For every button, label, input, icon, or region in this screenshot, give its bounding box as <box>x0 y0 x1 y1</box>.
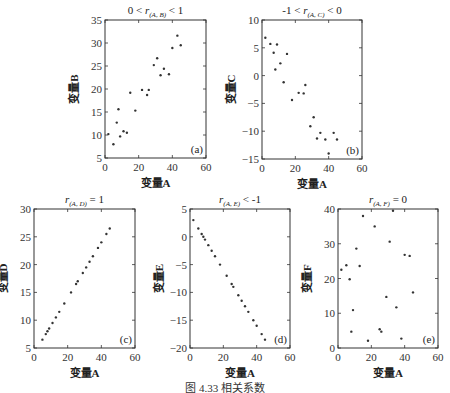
data-point <box>348 278 350 280</box>
data-point <box>400 337 402 339</box>
data-point <box>46 330 48 332</box>
y-axis-label: 变量D <box>0 263 9 293</box>
data-point <box>163 68 165 70</box>
data-point <box>345 264 347 266</box>
data-point <box>77 280 79 282</box>
y-axis-label: 变量B <box>67 74 80 104</box>
data-point <box>304 84 306 86</box>
y-tick-label: 0 <box>182 231 188 243</box>
y-tick-label: 15 <box>91 106 103 118</box>
data-point <box>197 227 199 229</box>
plot-frame <box>262 20 362 159</box>
figure-caption: 图 4.33 相关系数 <box>185 381 265 393</box>
data-point <box>117 108 119 110</box>
x-axis-label: 变量A <box>141 176 171 189</box>
x-tick-label: 60 <box>357 162 369 174</box>
x-axis-label: 变量A <box>373 366 403 379</box>
y-tick-label: 20 <box>20 259 32 271</box>
data-point <box>340 269 342 271</box>
data-point <box>388 240 390 242</box>
data-point <box>82 272 84 274</box>
data-point <box>392 210 394 212</box>
data-point <box>260 333 262 335</box>
x-tick-label: 60 <box>285 351 297 363</box>
x-tick-label: 40 <box>251 351 263 363</box>
y-tick-label: 25 <box>20 231 32 243</box>
y-tick-label: 30 <box>91 37 103 49</box>
x-tick-label: 0 <box>31 351 37 363</box>
y-tick-label: 30 <box>324 238 336 250</box>
data-point <box>269 43 271 45</box>
y-axis-label: 变量F <box>300 264 313 293</box>
data-point <box>324 138 326 140</box>
data-point <box>312 116 314 118</box>
plot-frame <box>190 209 290 348</box>
data-point <box>126 132 128 134</box>
data-point <box>352 309 354 311</box>
data-point <box>146 94 148 96</box>
panel-e: 0204060010203040r(A, F) = 0变量A变量F(e) <box>300 193 444 379</box>
data-point <box>380 330 382 332</box>
data-point <box>100 241 102 243</box>
data-point <box>55 316 57 318</box>
y-tick-label: 20 <box>91 83 103 95</box>
x-tick-label: 60 <box>130 351 142 363</box>
y-tick-label: 25 <box>91 60 103 72</box>
data-point <box>240 300 242 302</box>
x-tick-label: 60 <box>433 351 445 363</box>
data-point <box>319 132 321 134</box>
data-point <box>116 121 118 123</box>
data-point <box>252 319 254 321</box>
panel-d: 0204060−20−15−10−505r(A, E) < -1变量A变量E(d… <box>152 193 296 379</box>
y-axis-label: 变量C <box>224 74 237 104</box>
data-point <box>309 125 311 127</box>
data-point <box>378 328 380 330</box>
x-axis-label: 变量A <box>297 177 327 190</box>
data-point <box>134 109 136 111</box>
y-tick-label: 0 <box>254 70 260 82</box>
data-point <box>408 255 410 257</box>
x-tick-label: 20 <box>133 161 145 173</box>
plot-frame <box>338 209 438 348</box>
data-point <box>297 92 299 94</box>
data-point <box>122 130 124 132</box>
y-tick-label: 5 <box>97 152 103 164</box>
data-point <box>107 133 109 135</box>
x-tick-label: 0 <box>187 351 193 363</box>
data-point <box>255 325 257 327</box>
data-point <box>141 89 143 91</box>
data-point <box>207 244 209 246</box>
y-tick-label: 15 <box>20 286 32 298</box>
data-point <box>75 283 77 285</box>
data-point <box>48 327 50 329</box>
x-tick-label: 60 <box>201 161 213 173</box>
data-point <box>264 338 266 340</box>
y-tick-label: 5 <box>254 42 260 54</box>
data-point <box>45 333 47 335</box>
panel-tag: (e) <box>423 333 436 346</box>
data-point <box>291 99 293 101</box>
x-tick-label: 0 <box>335 351 341 363</box>
x-axis-label: 变量A <box>225 366 255 379</box>
data-point <box>85 266 87 268</box>
y-tick-label: 35 <box>91 14 103 26</box>
data-point <box>316 137 318 139</box>
panel-a: 020406051015202530350 < r(A, B) < 1变量A变量… <box>67 4 212 189</box>
data-point <box>180 44 182 46</box>
panel-title: r(A, F) = 0 <box>369 193 408 208</box>
data-point <box>373 225 375 227</box>
y-tick-label: −15 <box>170 314 188 326</box>
data-point <box>204 238 206 240</box>
y-tick-label: 30 <box>20 203 32 215</box>
data-point <box>70 291 72 293</box>
data-point <box>332 132 334 134</box>
data-point <box>159 74 161 76</box>
panel-title: 0 < r(A, B) < 1 <box>128 4 183 19</box>
data-point <box>192 219 194 221</box>
data-point <box>109 227 111 229</box>
data-point <box>153 64 155 66</box>
x-tick-label: 40 <box>167 161 179 173</box>
data-point <box>367 340 369 342</box>
data-point <box>362 215 364 217</box>
data-point <box>279 62 281 64</box>
